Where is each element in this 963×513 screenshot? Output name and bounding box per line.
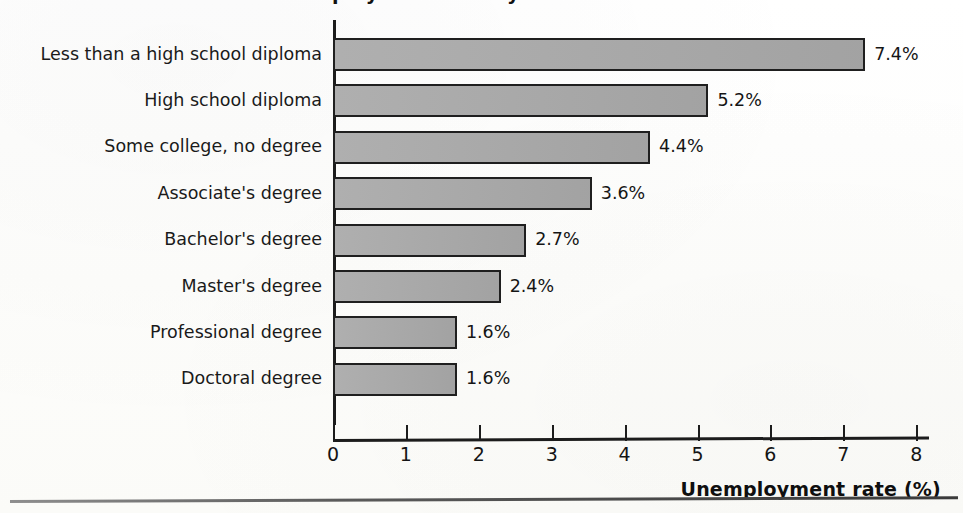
bar-6 bbox=[333, 270, 501, 303]
category-label-8: Doctoral degree bbox=[0, 370, 322, 388]
x-tick-label-2: 2 bbox=[473, 445, 485, 464]
chart-title-clipped: Unemployment rate by education level bbox=[0, 0, 963, 7]
bar-value-label-8: 1.6% bbox=[466, 370, 510, 388]
category-label-1: Less than a high school diploma bbox=[0, 46, 322, 64]
bar-value-label-6: 2.4% bbox=[510, 278, 554, 296]
x-tick-3 bbox=[552, 425, 554, 441]
bar-1 bbox=[333, 38, 865, 71]
x-tick-5 bbox=[698, 425, 700, 441]
bar-5 bbox=[333, 224, 526, 257]
category-label-5: Bachelor's degree bbox=[0, 231, 322, 249]
category-axis-labels: Less than a high school diplomaHigh scho… bbox=[0, 20, 322, 425]
bar-value-label-5: 2.7% bbox=[535, 231, 579, 249]
category-label-7: Professional degree bbox=[0, 324, 322, 342]
x-axis-line bbox=[333, 436, 929, 442]
x-tick-label-6: 6 bbox=[764, 445, 776, 464]
bar-value-label-4: 3.6% bbox=[601, 185, 645, 203]
bar-value-label-3: 4.4% bbox=[659, 138, 703, 156]
x-tick-label-5: 5 bbox=[691, 445, 703, 464]
x-tick-1 bbox=[406, 425, 408, 441]
category-label-2: High school diploma bbox=[0, 92, 322, 110]
x-tick-label-0: 0 bbox=[327, 445, 339, 464]
bar-3 bbox=[333, 131, 650, 164]
x-tick-label-3: 3 bbox=[546, 445, 558, 464]
plot-area: 7.4%5.2%4.4%3.6%2.7%2.4%1.6%1.6% bbox=[333, 20, 963, 425]
bar-value-label-1: 7.4% bbox=[874, 46, 918, 64]
x-tick-label-7: 7 bbox=[837, 445, 849, 464]
bar-value-label-7: 1.6% bbox=[466, 324, 510, 342]
category-label-6: Master's degree bbox=[0, 278, 322, 296]
x-tick-label-4: 4 bbox=[619, 445, 631, 464]
category-label-4: Associate's degree bbox=[0, 185, 322, 203]
category-label-3: Some college, no degree bbox=[0, 138, 322, 156]
x-tick-4 bbox=[625, 425, 627, 441]
bar-7 bbox=[333, 316, 457, 349]
chart-title: Unemployment rate by education level bbox=[0, 0, 963, 4]
bar-4 bbox=[333, 177, 592, 210]
chart-figure: Unemployment rate by education level Les… bbox=[0, 0, 963, 513]
bar-2 bbox=[333, 84, 708, 117]
x-tick-label-8: 8 bbox=[910, 445, 922, 464]
x-tick-0 bbox=[333, 425, 335, 441]
x-tick-2 bbox=[479, 425, 481, 441]
x-tick-8 bbox=[916, 425, 918, 441]
x-tick-label-1: 1 bbox=[400, 445, 412, 464]
bar-value-label-2: 5.2% bbox=[717, 92, 761, 110]
x-tick-6 bbox=[770, 425, 772, 441]
x-tick-7 bbox=[843, 425, 845, 441]
bar-8 bbox=[333, 363, 457, 396]
